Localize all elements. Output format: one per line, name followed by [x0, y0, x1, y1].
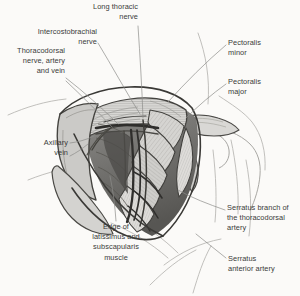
label-serratus-branch-thoracodorsal-artery: Serratus branch of the thoracodorsal art…: [227, 203, 299, 234]
label-long-thoracic-nerve: Long thoracic nerve: [86, 2, 138, 22]
label-pectoralis-major: Pectoralis major: [228, 77, 284, 97]
label-intercostobrachial-nerve: Intercostobrachial nerve: [27, 27, 97, 47]
label-serratus-anterior-artery: Serratus anterior artery: [228, 254, 296, 274]
chest-wall-contour: [206, 126, 260, 211]
leader-serratus-anterior-artery: [196, 234, 226, 258]
leader-pectoralis-minor: [168, 45, 226, 102]
leader-pectoralis-major: [186, 84, 226, 118]
label-axillary-vein: Axillary vein: [28, 138, 68, 158]
label-pectoralis-minor: Pectoralis minor: [228, 38, 284, 58]
label-edge-latissimus-subscapularis-muscle: Edge of latissimus and subscapularis mus…: [84, 222, 148, 263]
label-thoracodorsal-nerve-artery-vein: Thoracodorsal nerve, artery and vein: [3, 46, 65, 77]
